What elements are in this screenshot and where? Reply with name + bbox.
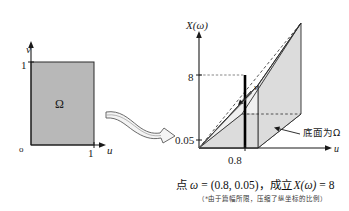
ribbon-arrow: [106, 112, 175, 143]
left-u-axis-label: u: [107, 145, 113, 156]
ribbon-arrow-body: [106, 112, 175, 143]
caption-equals: =: [201, 179, 208, 191]
right-tick-label-8: 8: [188, 72, 194, 83]
caption-omega: ω: [190, 179, 198, 191]
right-u-axis-arrowhead: [325, 145, 332, 151]
caption-value: 8: [329, 179, 335, 191]
right-tick-label-005: 0.05: [175, 135, 194, 146]
right-tick-label-08: 0.8: [228, 155, 242, 166]
left-u-axis-arrowhead: [99, 142, 106, 148]
left-tick-label-v-1: 1: [21, 60, 27, 71]
right-u-axis-label: u: [334, 144, 339, 154]
right-vertical-axis-label: X(ω): [186, 20, 208, 31]
caption-holds: 成立: [270, 179, 292, 191]
omega-region-label: Ω: [55, 98, 64, 110]
figure-canvas: v u 1 o 1 Ω X(ω) 8 0.05 0.8 u v 底面为Ω 点ω=…: [0, 0, 349, 211]
left-square-panel: [28, 41, 106, 148]
caption-prefix: 点: [176, 179, 187, 191]
caption-main: 点ω=(0.8, 0.05)，成立X(ω)=8: [176, 176, 335, 192]
left-origin-label: o: [19, 145, 24, 154]
caption-equals-2: =: [319, 179, 326, 191]
base-annotation-label: 底面为Ω: [303, 128, 340, 138]
caption-point: (0.8, 0.05)，: [211, 179, 270, 191]
left-v-axis-label: v: [26, 44, 31, 55]
right-vertical-axis-arrowhead: [196, 31, 202, 38]
caption-x-omega: X(ω): [294, 179, 317, 191]
left-tick-label-u-1: 1: [88, 148, 94, 159]
caption-note: （*由于篇幅所限，压缩了纵坐标的比例）: [198, 193, 327, 203]
right-v-axis-label: v: [254, 83, 258, 92]
